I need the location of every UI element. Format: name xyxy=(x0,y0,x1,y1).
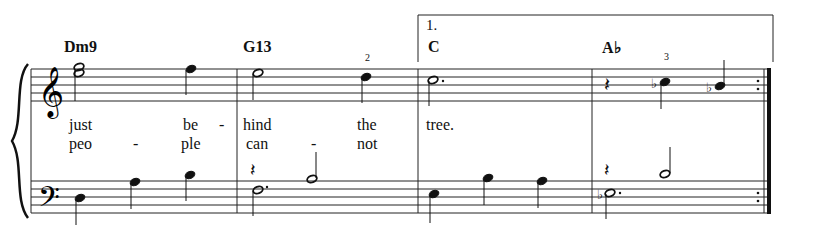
lyric-syllable: be xyxy=(183,116,198,134)
volta-bracket xyxy=(418,15,773,62)
chord-symbol-g13: G13 xyxy=(243,38,271,56)
lyric-syllable: hind xyxy=(243,116,271,134)
lyric-syllable: just xyxy=(69,116,92,134)
svg-text:♭: ♭ xyxy=(706,80,712,95)
fingering-3: 3 xyxy=(664,51,669,62)
svg-text:𝄽: 𝄽 xyxy=(250,159,256,180)
final-barline xyxy=(767,68,771,214)
chord-symbol-dm9: Dm9 xyxy=(64,38,97,56)
svg-text:♭: ♭ xyxy=(651,76,657,91)
lyric-hyphen: - xyxy=(311,135,316,153)
svg-text:♭: ♭ xyxy=(597,187,603,202)
lyric-syllable: ple xyxy=(181,135,201,153)
brace xyxy=(12,64,28,218)
lyric-hyphen: - xyxy=(219,116,224,134)
svg-text:𝄽: 𝄽 xyxy=(604,159,610,180)
lyric-hyphen: - xyxy=(133,135,138,153)
fingering-2: 2 xyxy=(365,52,370,63)
bass-clef-icon: 𝄢 xyxy=(38,180,60,220)
lyric-syllable: can xyxy=(246,135,268,153)
volta-label: 1. xyxy=(426,17,437,34)
treble-staff xyxy=(31,69,770,101)
music-score: 𝄞 𝄢 𝄽 ♭ ♭ 𝄽 xyxy=(0,0,814,241)
lyric-syllable: tree. xyxy=(426,116,454,134)
lyric-syllable: the xyxy=(357,116,377,134)
svg-text:𝄽: 𝄽 xyxy=(604,72,610,96)
chord-symbol-c: C xyxy=(428,38,440,56)
lyric-syllable: peo xyxy=(69,135,92,153)
lyric-syllable: not xyxy=(357,135,377,153)
treble-clef-icon: 𝄞 xyxy=(38,65,64,119)
bass-staff xyxy=(31,181,770,213)
repeat-dots xyxy=(757,80,760,203)
chord-symbol-ab: A♭ xyxy=(602,38,622,57)
